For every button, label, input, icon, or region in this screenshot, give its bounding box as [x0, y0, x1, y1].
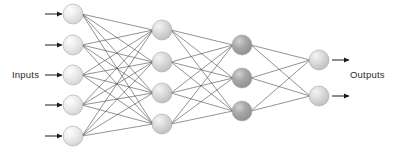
network-node	[309, 86, 329, 106]
network-node	[63, 4, 83, 24]
connection-edge	[171, 93, 233, 111]
connection-edge	[82, 75, 153, 93]
connection-edges	[82, 14, 310, 136]
network-canvas	[0, 0, 400, 158]
connection-edge	[82, 45, 153, 62]
connection-edge	[251, 78, 310, 96]
connection-edge	[82, 30, 153, 105]
outputs-label: Outputs	[350, 70, 385, 80]
inputs-label: Inputs	[12, 70, 39, 80]
network-node	[63, 35, 83, 55]
connection-edge	[171, 62, 233, 78]
network-node	[309, 50, 329, 70]
connection-edge	[251, 60, 310, 78]
network-node	[63, 95, 83, 115]
network-node	[232, 68, 252, 88]
network-nodes	[63, 4, 329, 146]
connection-edge	[171, 45, 233, 62]
network-node	[232, 101, 252, 121]
network-node	[152, 52, 172, 72]
io-arrows	[45, 14, 349, 136]
connection-edge	[82, 30, 153, 136]
network-node	[63, 65, 83, 85]
network-node	[152, 20, 172, 40]
connection-edge	[82, 30, 153, 45]
connection-edge	[82, 124, 153, 136]
connection-edge	[171, 111, 233, 124]
network-diagram: Inputs Outputs	[0, 0, 400, 158]
network-node	[152, 114, 172, 134]
connection-edge	[171, 45, 233, 124]
network-node	[232, 35, 252, 55]
connection-edge	[82, 14, 153, 62]
network-node	[63, 126, 83, 146]
connection-edge	[82, 14, 153, 30]
connection-edge	[82, 45, 153, 124]
network-node	[152, 83, 172, 103]
